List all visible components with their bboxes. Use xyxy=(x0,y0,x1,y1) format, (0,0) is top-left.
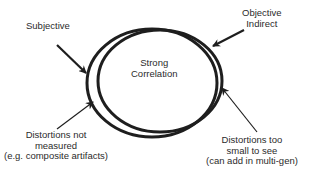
distortions-too-small-line-3: (can add in multi-gen) xyxy=(206,156,298,167)
objective-indirect-line-1: Objective xyxy=(242,8,282,19)
distortions-not-measured-line-1: Distortions not xyxy=(4,130,108,141)
subjective-arrow xyxy=(57,45,86,73)
distortions-not-measured-line-3: (e.g. composite artifacts) xyxy=(4,151,108,162)
strong-correlation-line-1: Strong xyxy=(131,58,177,69)
strong-correlation-label: Strong Correlation xyxy=(131,58,177,79)
strong-correlation-line-2: Correlation xyxy=(131,69,177,80)
distortions-not-measured-label: Distortions not measured (e.g. composite… xyxy=(4,130,108,162)
distortions-not-measured-leader xyxy=(57,102,93,129)
diagram-canvas: Subjective Objective Indirect Strong Cor… xyxy=(0,0,315,177)
objective-indirect-label: Objective Indirect xyxy=(242,8,282,29)
distortions-too-small-leader xyxy=(222,88,257,132)
objective-indirect-arrow xyxy=(213,30,244,46)
objective-indirect-line-2: Indirect xyxy=(242,19,282,30)
distortions-too-small-line-1: Distortions too xyxy=(206,135,298,146)
objective-ellipse xyxy=(98,30,222,132)
distortions-too-small-label: Distortions too small to see (can add in… xyxy=(206,135,298,167)
subjective-label: Subjective xyxy=(26,21,70,32)
